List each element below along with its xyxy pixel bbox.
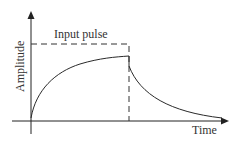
- y-axis-label: Amplitude: [13, 41, 27, 92]
- x-axis-label: Time: [192, 123, 217, 137]
- input-pulse-line: [31, 44, 129, 121]
- pulse-response-diagram: Input pulse Amplitude Time: [0, 0, 240, 142]
- input-pulse-label: Input pulse: [54, 27, 108, 41]
- x-axis-arrow-icon: [221, 118, 229, 125]
- response-rise-curve: [31, 56, 129, 118]
- response-decay-curve: [129, 56, 222, 118]
- y-axis-arrow-icon: [28, 11, 35, 19]
